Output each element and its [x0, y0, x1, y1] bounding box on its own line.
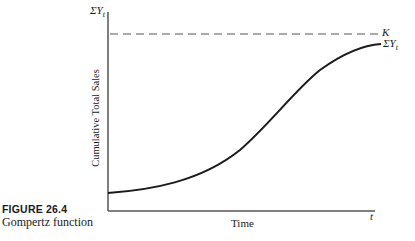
x-end-label: t: [370, 210, 373, 222]
gompertz-curve: [108, 44, 381, 193]
y-top-label: ΣYt: [90, 4, 105, 19]
y-axis-label: Cumulative Total Sales: [90, 69, 101, 167]
figure-caption: FIGURE 26.4 Gompertz function: [2, 203, 93, 229]
figure-title: Gompertz function: [2, 216, 93, 229]
curve-label: ΣYt: [383, 37, 398, 52]
x-axis-label: Time: [231, 217, 254, 229]
